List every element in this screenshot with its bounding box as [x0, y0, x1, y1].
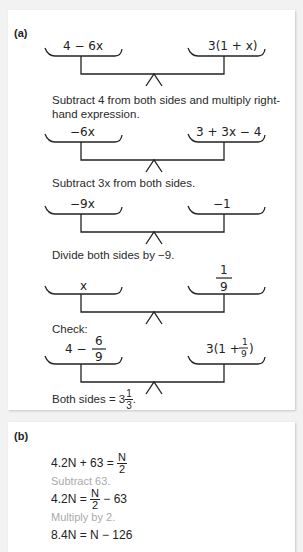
step-2: Multiply by 2.	[51, 511, 115, 523]
equation-2: 4.2N = N2 − 63	[51, 488, 127, 511]
equation-3: 8.4N = N − 126	[51, 528, 132, 542]
scale-5-left-whole: 4 −	[65, 342, 87, 356]
caption-3: Divide both sides by −9.	[52, 248, 287, 262]
scale-1-left: 4 − 6x	[63, 39, 103, 53]
scale-2-left: −6x	[70, 125, 95, 139]
scale-5-left-num: 6	[95, 334, 103, 348]
caption-2: Subtract 3x from both sides.	[52, 176, 287, 190]
part-a-panel: (a) 4 − 6x 3(1 + x) Subtract 4 from both…	[8, 10, 295, 410]
scale-5-right-num: 1	[242, 337, 248, 347]
scale-1-right: 3(1 + x)	[208, 39, 257, 53]
scale-5-right-pre: 3(1 +	[206, 342, 240, 356]
scale-3-left: −9x	[70, 197, 95, 211]
scale-4-right-den: 9	[220, 280, 228, 294]
balance-scale-2: −6x 3 + 3x − 4	[8, 124, 295, 184]
caption-1: Subtract 4 from both sides and multiply …	[52, 93, 287, 121]
conclusion: Both sides = 313.	[52, 388, 287, 411]
scale-5-right-post: )	[249, 342, 254, 356]
part-b-label: (b)	[14, 430, 28, 442]
scale-4-right-num: 1	[220, 263, 228, 277]
scale-3-right: −1	[213, 197, 231, 211]
scale-5-right-den: 9	[241, 349, 247, 359]
equation-1: 4.2N + 63 = N2	[51, 452, 127, 475]
balance-scale-3: −9x −1	[8, 196, 295, 256]
scale-4-left: x	[80, 279, 87, 293]
scale-5-left-den: 9	[95, 350, 103, 364]
balance-scale-1: 4 − 6x 3(1 + x)	[8, 38, 295, 98]
scale-2-right: 3 + 3x − 4	[196, 125, 261, 139]
step-1: Subtract 63.	[51, 475, 110, 487]
part-b-panel: (b) 4.2N + 63 = N2 Subtract 63. 4.2N = N…	[8, 422, 295, 552]
